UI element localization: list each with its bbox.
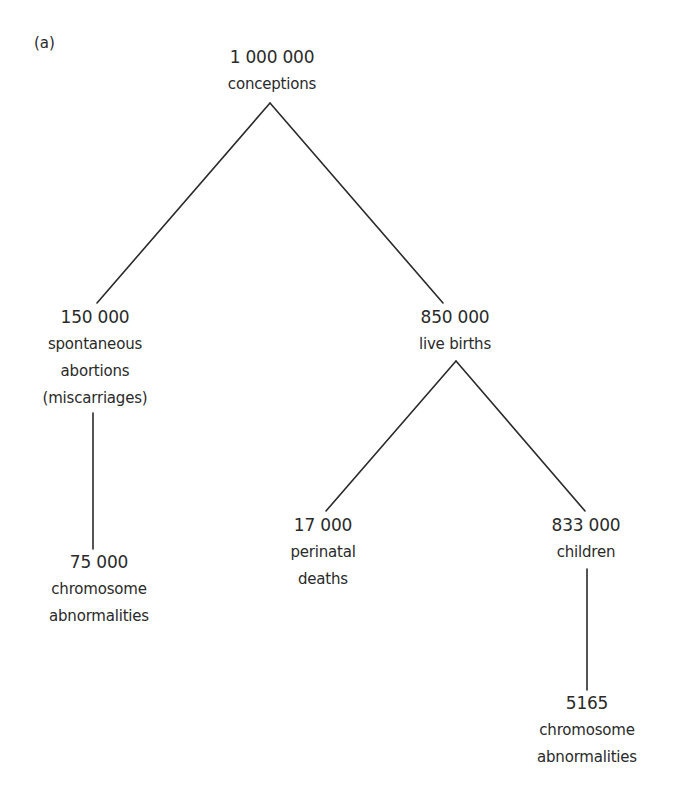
node-label: children — [552, 539, 621, 566]
node-miscarriage-chromosome-abnormalities: 75 000 chromosome abnormalities — [49, 549, 149, 630]
node-children: 833 000 children — [552, 512, 621, 566]
node-label: abnormalities — [537, 744, 637, 771]
node-conceptions: 1 000 000 conceptions — [228, 44, 316, 98]
node-label: perinatal — [290, 539, 355, 566]
node-value: 5165 — [537, 690, 637, 717]
node-value: 17 000 — [290, 512, 355, 539]
node-live-births: 850 000 live births — [419, 304, 491, 358]
node-label: chromosome — [49, 576, 149, 603]
edge-root-miscarriages — [97, 103, 270, 303]
node-label: (miscarriages) — [43, 385, 148, 412]
node-label: live births — [419, 331, 491, 358]
node-children-chromosome-abnormalities: 5165 chromosome abnormalities — [537, 690, 637, 771]
node-spontaneous-abortions: 150 000 spontaneous abortions (miscarria… — [43, 304, 148, 412]
node-value: 850 000 — [419, 304, 491, 331]
edge-live-births-children — [456, 361, 585, 511]
edge-root-live-births — [270, 103, 443, 303]
node-label: deaths — [290, 566, 355, 593]
node-value: 1 000 000 — [228, 44, 316, 71]
node-label: abortions — [43, 358, 148, 385]
edge-live-births-perinatal — [326, 361, 456, 511]
node-value: 833 000 — [552, 512, 621, 539]
node-label: conceptions — [228, 71, 316, 98]
node-perinatal-deaths: 17 000 perinatal deaths — [290, 512, 355, 593]
node-label: spontaneous — [43, 331, 148, 358]
node-value: 150 000 — [43, 304, 148, 331]
node-value: 75 000 — [49, 549, 149, 576]
node-label: abnormalities — [49, 603, 149, 630]
node-label: chromosome — [537, 717, 637, 744]
